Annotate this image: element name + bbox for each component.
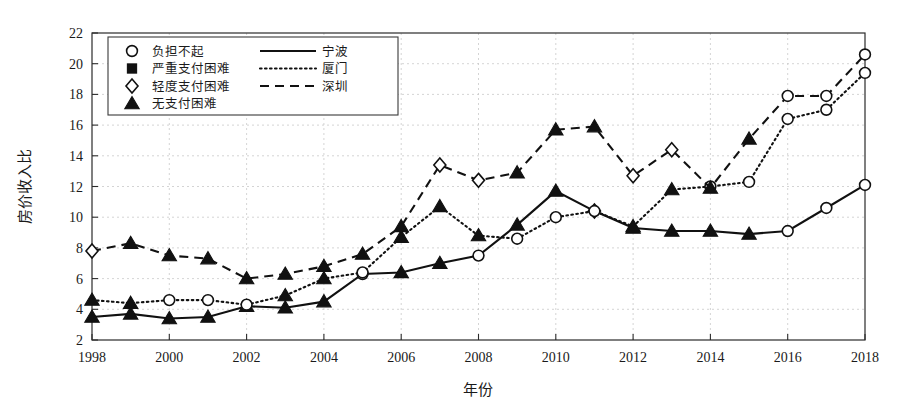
data-point-diamond-open — [86, 244, 98, 258]
legend-marker-label-1: 严重支付困难 — [152, 61, 230, 76]
data-point-circle-open — [473, 250, 484, 261]
data-point-circle-open — [782, 114, 793, 125]
data-point-triangle-filled — [162, 249, 176, 261]
data-point-triangle-filled — [665, 183, 679, 195]
data-point-circle-open — [860, 49, 871, 60]
data-point-circle-open — [203, 295, 214, 306]
y-tick-label: 10 — [69, 210, 83, 225]
data-point-triangle-filled — [123, 296, 137, 308]
data-point-triangle-filled — [278, 267, 292, 279]
data-point-triangle-filled — [123, 236, 137, 248]
y-tick-label: 18 — [69, 87, 83, 102]
y-tick-label: 12 — [69, 180, 83, 195]
chart-screenshot: 246810121416182022 199820002002200420062… — [0, 0, 910, 413]
x-tick-label: 2012 — [619, 350, 647, 365]
data-point-circle-open — [821, 104, 832, 115]
data-point-triangle-filled — [587, 120, 601, 132]
data-point-triangle-filled — [85, 293, 99, 305]
legend-marker-label-2: 轻度支付困难 — [152, 79, 230, 94]
data-point-circle-open — [744, 176, 755, 187]
data-point-triangle-filled — [549, 184, 563, 196]
data-point-circle-open — [127, 46, 138, 57]
y-tick-label: 2 — [76, 333, 83, 348]
data-point-square-filled — [127, 64, 136, 73]
data-point-circle-open — [821, 91, 832, 102]
y-tick-label: 8 — [76, 241, 83, 256]
y-axis-title: 房价收入比 — [17, 149, 33, 224]
legend-marker-label-0: 负担不起 — [152, 45, 204, 59]
legend-line-label-1: 厦门 — [322, 61, 348, 76]
data-point-circle-open — [821, 203, 832, 214]
data-point-circle-open — [860, 180, 871, 191]
house-price-income-ratio-line-chart: 246810121416182022 199820002002200420062… — [0, 0, 910, 413]
x-axis-ticks: 1998200020022004200620082010201220142016… — [78, 334, 879, 365]
y-tick-label: 14 — [69, 149, 83, 164]
data-point-triangle-filled — [471, 229, 485, 241]
data-point-triangle-filled — [510, 166, 524, 178]
x-tick-label: 2000 — [155, 350, 183, 365]
x-tick-label: 2004 — [310, 350, 338, 365]
data-point-circle-open — [357, 267, 368, 278]
x-tick-label: 2016 — [774, 350, 802, 365]
data-point-circle-open — [860, 68, 871, 79]
data-point-circle-open — [164, 295, 175, 306]
y-tick-label: 16 — [69, 118, 83, 133]
y-tick-label: 22 — [69, 26, 83, 41]
data-point-circle-open — [589, 206, 600, 217]
data-point-triangle-filled — [317, 295, 331, 307]
data-point-circle-open — [782, 226, 793, 237]
y-tick-label: 4 — [76, 302, 83, 317]
x-tick-label: 2010 — [542, 350, 570, 365]
y-tick-label: 6 — [76, 272, 83, 287]
x-tick-label: 2018 — [851, 350, 879, 365]
x-tick-label: 2014 — [696, 350, 724, 365]
chart-canvas: 246810121416182022 199820002002200420062… — [0, 0, 910, 413]
data-point-triangle-filled — [433, 199, 447, 211]
data-point-circle-open — [241, 299, 252, 310]
x-tick-label: 2006 — [387, 350, 415, 365]
x-axis-title: 年份 — [463, 382, 493, 398]
x-tick-label: 1998 — [78, 350, 106, 365]
data-point-circle-open — [512, 233, 523, 244]
data-point-triangle-filled — [394, 219, 408, 231]
legend-marker-label-3: 无支付困难 — [152, 97, 217, 111]
chart-legend: 负担不起严重支付困难轻度支付困难无支付困难宁波厦门深圳 — [108, 37, 398, 115]
legend-line-label-0: 宁波 — [322, 44, 348, 59]
data-point-triangle-filled — [278, 288, 292, 300]
data-point-diamond-open — [473, 173, 485, 187]
data-point-triangle-filled — [355, 247, 369, 259]
legend-line-label-2: 深圳 — [322, 80, 348, 94]
x-tick-label: 2002 — [233, 350, 261, 365]
x-tick-label: 2008 — [465, 350, 493, 365]
y-tick-label: 20 — [69, 57, 83, 72]
data-point-circle-open — [782, 91, 793, 102]
data-point-circle-open — [550, 212, 561, 223]
